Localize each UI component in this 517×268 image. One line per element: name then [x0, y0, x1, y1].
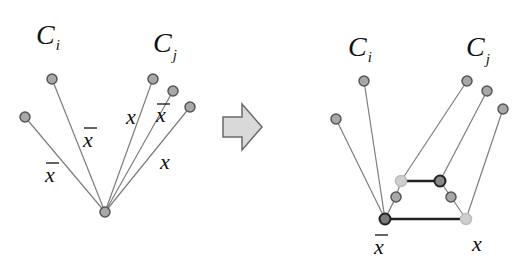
edge-midrightupper-cj-2	[440, 91, 487, 181]
transform-arrow-icon	[223, 104, 262, 150]
right-nodes	[331, 76, 508, 225]
node-mid-left-lower	[391, 192, 401, 202]
node-cj-1	[462, 76, 472, 86]
label-ci-left: Ci	[36, 19, 60, 53]
left-nodes	[20, 74, 195, 217]
node-ci-1	[20, 112, 30, 122]
edge-label-xbar-1: x	[44, 162, 55, 187]
right-panel: Ci Cj x x	[331, 31, 508, 259]
node-ci-1	[331, 114, 341, 124]
left-edges	[25, 79, 190, 212]
node-cj-2	[168, 86, 178, 96]
edge-x-cj-3	[466, 109, 503, 219]
edge-label-xbar-2: x	[82, 127, 93, 152]
right-thin-edges	[336, 81, 503, 219]
label-x-bottom: x	[471, 231, 482, 256]
left-panel: Ci Cj x x x x x	[20, 19, 195, 217]
edge-cj-3	[105, 107, 190, 212]
label-ci-right: Ci	[348, 31, 372, 65]
edge-label-x-1: x	[125, 104, 136, 129]
edge-ci-1	[25, 117, 105, 212]
label-xbar-bottom: x	[373, 234, 384, 259]
label-cj-left: Cj	[153, 27, 177, 63]
node-mid-right-upper	[435, 176, 446, 187]
node-center	[100, 207, 110, 217]
node-mid-left-upper	[396, 176, 407, 187]
edge-cj-1	[105, 79, 153, 212]
right-bottom-labels: x x	[373, 231, 482, 259]
node-cj-2	[482, 86, 492, 96]
node-cj-1	[148, 74, 158, 84]
node-cj-3	[185, 102, 195, 112]
node-x	[461, 214, 472, 225]
diagram-canvas: Ci Cj x x x x x	[0, 0, 517, 268]
left-edge-labels: x x x x x	[44, 102, 170, 187]
node-ci-2	[47, 74, 57, 84]
node-xbar	[380, 214, 391, 225]
edge-midleftupper-cj-1	[401, 81, 467, 181]
edge-label-xbar-3: x	[155, 102, 166, 127]
edge-ci-2	[52, 79, 105, 212]
node-mid-right-lower	[446, 192, 456, 202]
node-cj-3	[498, 104, 508, 114]
label-cj-right: Cj	[466, 31, 490, 67]
edge-label-x-2: x	[159, 149, 170, 174]
node-ci-2	[359, 76, 369, 86]
